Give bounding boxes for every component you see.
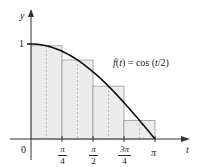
tick-label-pi: π xyxy=(151,148,156,158)
tick-label-pi-over-2: π2 xyxy=(89,145,98,166)
midpoint-rectangle xyxy=(62,60,93,139)
y-axis-arrow-icon xyxy=(28,9,34,17)
y-axis-label: y xyxy=(20,11,24,21)
t-axis-label: t xyxy=(186,145,189,155)
y-tick-one: 1 xyxy=(19,39,24,49)
function-label: f(t) = cos (t/2) xyxy=(113,58,169,68)
x-axis-arrow-icon xyxy=(181,136,190,142)
tick-label-3pi-over-4: 3π4 xyxy=(118,145,131,166)
origin-label: 0 xyxy=(21,145,26,155)
midpoint-rule-plot xyxy=(0,0,200,167)
tick-label-pi-over-4: π4 xyxy=(58,145,67,166)
